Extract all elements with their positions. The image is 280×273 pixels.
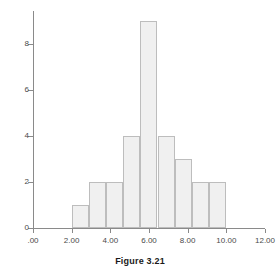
x-tick-mark — [149, 229, 150, 233]
x-tick-mark — [265, 229, 266, 233]
x-tick-label: 4.00 — [90, 236, 130, 245]
x-tick-mark — [110, 229, 111, 233]
x-tick-mark — [33, 229, 34, 233]
x-tick-label: 6.00 — [129, 236, 169, 245]
histogram-bar — [123, 136, 140, 228]
figure-container: 02468 .002.004.006.008.0010.0012.00 Figu… — [0, 0, 280, 273]
histogram-bar — [192, 182, 209, 228]
x-tick-mark — [188, 229, 189, 233]
histogram-bar — [106, 182, 123, 228]
histogram-bar — [140, 21, 157, 228]
y-tick-label: 4 — [7, 132, 29, 140]
histogram-bar — [175, 159, 192, 228]
y-tick-label: 2 — [7, 178, 29, 186]
figure-caption: Figure 3.21 — [0, 256, 280, 266]
y-axis-line — [33, 11, 34, 229]
y-tick-label: 8 — [7, 40, 29, 48]
x-tick-label: 12.00 — [245, 236, 280, 245]
x-tick-label: 8.00 — [168, 236, 208, 245]
histogram-plot: 02468 .002.004.006.008.0010.0012.00 — [0, 0, 280, 240]
histogram-bar — [158, 136, 175, 228]
x-tick-label: 2.00 — [52, 236, 92, 245]
histogram-bar — [72, 205, 89, 228]
histogram-bar — [89, 182, 106, 228]
x-tick-label: .00 — [13, 236, 53, 245]
x-tick-label: 10.00 — [206, 236, 246, 245]
x-tick-mark — [72, 229, 73, 233]
y-tick-label: 0 — [7, 224, 29, 232]
y-tick-label: 6 — [7, 86, 29, 94]
x-tick-mark — [226, 229, 227, 233]
histogram-bar — [209, 182, 226, 228]
